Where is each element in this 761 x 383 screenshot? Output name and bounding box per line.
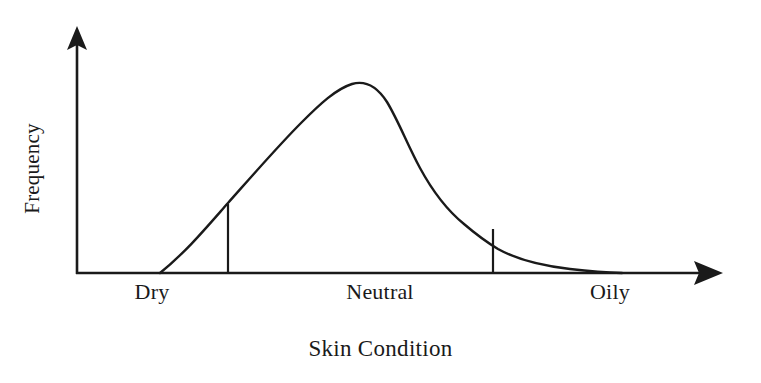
distribution-figure: Frequency Dry Neutral Oily Skin Conditio… [0, 0, 761, 383]
x-tick-label-dry: Dry [107, 279, 197, 305]
x-tick-label-neutral: Neutral [320, 279, 440, 305]
y-axis-label-text: Frequency [22, 103, 43, 235]
y-axis-label: Frequency [20, 105, 44, 235]
distribution-curve [160, 83, 622, 273]
x-axis-label: Skin Condition [0, 337, 761, 360]
x-tick-label-oily: Oily [565, 279, 655, 305]
plot-area [0, 0, 761, 383]
